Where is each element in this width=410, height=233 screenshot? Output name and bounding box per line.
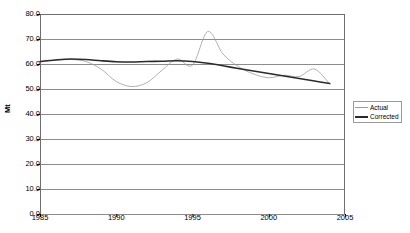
legend-line-actual-icon [355,107,368,108]
x-tick-label: 2005 [337,214,354,222]
legend-label-actual: Actual [370,104,388,112]
series-line-corrected [40,59,330,84]
chart-legend: Actual Corrected [353,101,402,123]
legend-item-actual: Actual [355,103,399,112]
x-tick-label: 1990 [108,214,125,222]
legend-item-corrected: Corrected [355,112,399,121]
legend-label-corrected: Corrected [370,113,399,121]
legend-line-corrected-icon [355,116,368,118]
x-axis-tick-labels: 19851990199520002005 [0,214,410,226]
chart-container: Mt 0.010.020.030.040.050.060.070.080.0 1… [0,0,410,233]
plot-area [0,0,410,233]
x-tick-label: 1995 [184,214,201,222]
x-tick-label: 1985 [32,214,49,222]
x-tick-label: 2000 [260,214,277,222]
